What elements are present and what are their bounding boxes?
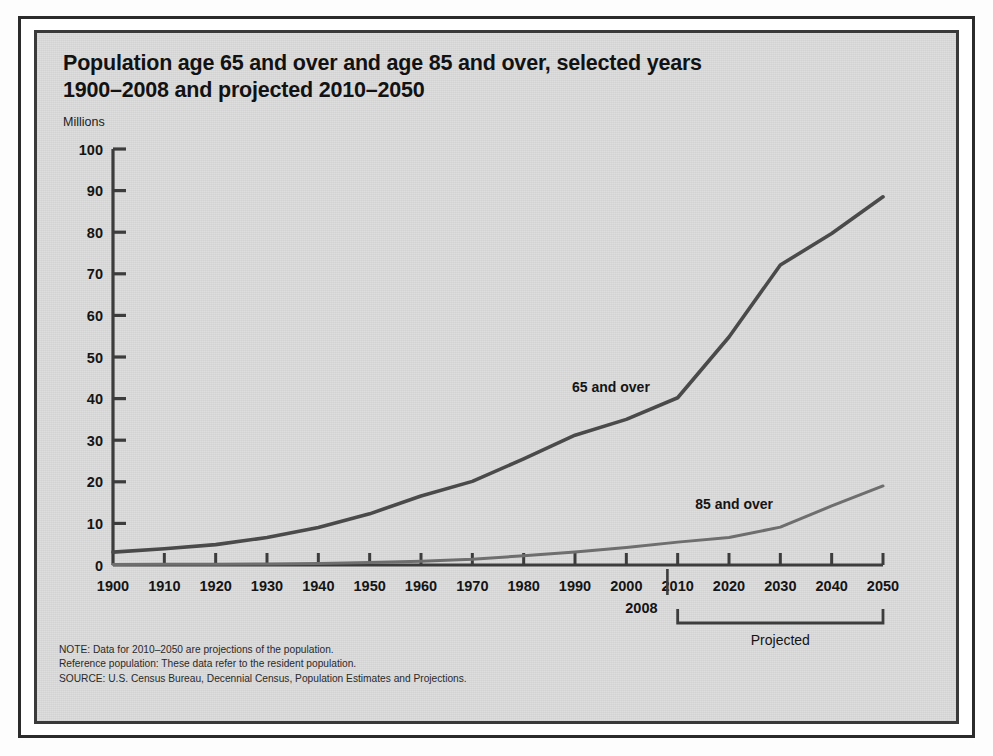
y-axis-tick-label: 50 xyxy=(87,350,103,366)
chart-page: Population age 65 and over and age 85 an… xyxy=(0,0,993,756)
x-axis-tick-label: 1900 xyxy=(97,578,129,594)
footnote-note: NOTE: Data for 2010–2050 are projections… xyxy=(59,643,919,657)
chart-footnotes: NOTE: Data for 2010–2050 are projections… xyxy=(59,643,919,686)
y-axis-tick-label: 90 xyxy=(87,183,103,199)
x-axis-tick-label: 2050 xyxy=(867,578,899,594)
x-axis-tick-label: 1980 xyxy=(508,578,540,594)
series-label: 85 and over xyxy=(695,496,773,512)
axis-layer: 0102030405060708090100190019101920193019… xyxy=(79,142,899,595)
x-axis-tick-label: 2000 xyxy=(610,578,642,594)
marker-2008-label: 2008 xyxy=(625,600,657,616)
line-chart-plot: 0102030405060708090100190019101920193019… xyxy=(37,33,959,724)
x-axis-tick-label: 2030 xyxy=(764,578,796,594)
x-axis-tick-label: 1950 xyxy=(354,578,386,594)
y-axis-tick-label: 40 xyxy=(87,391,103,407)
x-axis-tick-label: 1960 xyxy=(405,578,437,594)
y-axis-tick-label: 30 xyxy=(87,433,103,449)
x-axis-tick-label: 1930 xyxy=(251,578,283,594)
chart-panel: Population age 65 and over and age 85 an… xyxy=(34,30,959,724)
x-axis-tick-label: 2020 xyxy=(713,578,745,594)
y-axis-tick-label: 100 xyxy=(79,142,103,158)
x-axis-tick-label: 1970 xyxy=(456,578,488,594)
footnote-source: SOURCE: U.S. Census Bureau, Decennial Ce… xyxy=(59,672,919,686)
footnote-reference: Reference population: These data refer t… xyxy=(59,657,919,671)
x-axis-tick-label: 1990 xyxy=(559,578,591,594)
projected-bracket xyxy=(678,609,883,623)
x-axis-tick-label: 1940 xyxy=(302,578,334,594)
x-axis-tick-label: 1920 xyxy=(200,578,232,594)
y-axis-tick-label: 10 xyxy=(87,516,103,532)
y-axis-tick-label: 70 xyxy=(87,266,103,282)
y-axis-tick-label: 80 xyxy=(87,225,103,241)
y-axis-tick-label: 60 xyxy=(87,308,103,324)
series-label: 65 and over xyxy=(572,379,650,395)
y-axis-tick-label: 20 xyxy=(87,474,103,490)
x-axis-tick-label: 1910 xyxy=(148,578,180,594)
y-axis-tick-label: 0 xyxy=(95,558,103,574)
annotation-layer: 65 and over85 and over2008Projected xyxy=(572,379,883,648)
x-axis-tick-label: 2040 xyxy=(816,578,848,594)
